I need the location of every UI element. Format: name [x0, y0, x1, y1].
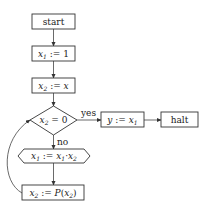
svg-text:x1 := 1: x1 := 1: [38, 49, 69, 60]
svg-text:x2 = 0: x2 = 0: [40, 115, 68, 126]
svg-text:y := x1: y := x1: [106, 115, 137, 126]
edge-label-no: no: [57, 137, 68, 147]
node-init-x1: x1 := 1: [32, 46, 75, 61]
node-start: start: [32, 14, 75, 29]
node-halt: halt: [161, 112, 198, 127]
svg-text:start: start: [43, 17, 65, 27]
node-init-x2: x2 := x: [32, 78, 75, 93]
node-test-diamond: x2 = 0: [30, 106, 77, 135]
node-pred: x2 := P(x2): [22, 185, 84, 200]
svg-text:x2 := x: x2 := x: [38, 81, 68, 92]
node-assign-y: y := x1: [101, 112, 144, 127]
svg-text:halt: halt: [171, 115, 189, 125]
edge-label-yes: yes: [80, 108, 96, 118]
node-mult-hexagon: x1 := x1·x2: [18, 149, 90, 163]
flowchart-canvas: yes no start x1 := 1 x2 := x x2 = 0 y :=…: [0, 0, 210, 210]
